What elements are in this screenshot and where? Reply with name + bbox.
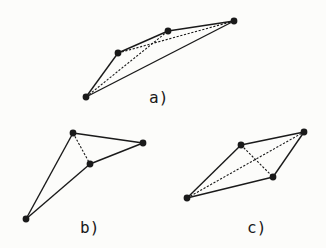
vertex-dot-icon	[231, 18, 238, 25]
panel-c-quadrilateral	[184, 129, 308, 202]
solid-edge	[241, 132, 304, 145]
vertex-dot-icon	[301, 129, 308, 136]
vertex-dot-icon	[270, 174, 277, 181]
solid-edge	[118, 31, 168, 53]
dashed-diagonal-edge	[187, 132, 304, 198]
panel-b-label: b)	[80, 220, 99, 236]
panel-a-label: a)	[149, 90, 168, 106]
vertex-dot-icon	[140, 140, 147, 147]
solid-edge	[26, 164, 90, 219]
figure-canvas: a) b) c)	[0, 0, 326, 248]
dashed-diagonal-edge	[73, 133, 90, 164]
vertex-dot-icon	[165, 28, 172, 35]
panel-c-label: c)	[247, 220, 266, 236]
vertex-dot-icon	[70, 130, 77, 137]
solid-edge	[86, 21, 234, 97]
dashed-diagonal-edge	[118, 21, 234, 53]
vertex-dot-icon	[184, 195, 191, 202]
solid-edge	[273, 132, 304, 177]
vertex-dot-icon	[87, 161, 94, 168]
vertex-dot-icon	[83, 94, 90, 101]
vertex-dot-icon	[238, 142, 245, 149]
solid-edge	[187, 145, 241, 198]
solid-edge	[187, 177, 273, 198]
solid-edge	[26, 133, 73, 219]
vertex-dot-icon	[115, 50, 122, 57]
vertex-dot-icon	[23, 216, 30, 223]
dashed-diagonal-edge	[241, 145, 273, 177]
panel-b-quadrilateral	[23, 130, 147, 223]
solid-edge	[73, 133, 143, 143]
quadrilateral-diagrams	[0, 0, 326, 248]
solid-edge	[90, 143, 143, 164]
